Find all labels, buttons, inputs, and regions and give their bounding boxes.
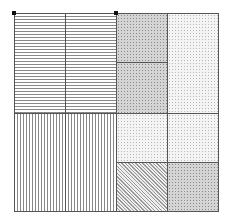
cell-bottom-right-upper (167, 113, 219, 163)
cell-bottom-left-b (65, 113, 117, 212)
cell-top-left-b (65, 13, 117, 114)
corner-marker-top-left (12, 11, 16, 15)
cell-bottom-right-lower (167, 162, 219, 212)
cell-top-mid-upper (116, 13, 168, 63)
corner-marker-top-mid (114, 11, 118, 15)
cell-bottom-mid-upper (116, 113, 168, 163)
cell-top-right (167, 13, 219, 114)
cell-top-left-a (14, 13, 66, 114)
cell-bottom-mid-lower (116, 162, 168, 212)
cell-top-mid-lower (116, 62, 168, 114)
cell-bottom-left-a (14, 113, 66, 212)
